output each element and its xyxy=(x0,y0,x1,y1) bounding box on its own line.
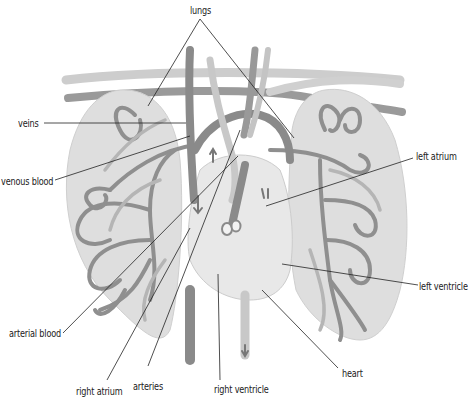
diagram-artwork xyxy=(0,0,468,406)
label-arterial-blood: arterial blood xyxy=(9,327,61,339)
label-arteries: arteries xyxy=(133,380,163,392)
label-left-ventricle: left ventricle xyxy=(419,280,468,292)
circulation-diagram: lungs veins venous blood left atrium lef… xyxy=(0,0,468,406)
label-right-atrium: right atrium xyxy=(76,385,122,397)
label-veins: veins xyxy=(18,117,39,129)
label-heart: heart xyxy=(342,367,363,379)
label-left-atrium: left atrium xyxy=(416,150,457,162)
label-lungs: lungs xyxy=(190,4,211,16)
label-right-ventricle: right ventricle xyxy=(214,383,269,395)
label-venous-blood: venous blood xyxy=(1,175,53,187)
